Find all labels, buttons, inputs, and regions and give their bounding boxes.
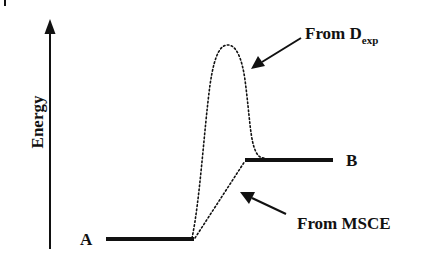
msce-annotation: From MSCE <box>297 215 391 232</box>
dexp-barrier-curve <box>192 45 266 238</box>
dexp-annotation: From Dexp <box>305 25 378 46</box>
level-b-label: B <box>346 152 357 169</box>
msce-pointer-arrow <box>240 192 286 214</box>
dexp-annotation-main: From D <box>305 24 362 43</box>
axis-arrowhead-icon <box>45 19 56 34</box>
energy-axis-label: Energy <box>28 90 48 154</box>
dexp-pointer-arrow <box>251 38 301 69</box>
msce-path-line <box>195 161 245 238</box>
level-a-label: A <box>80 231 92 248</box>
dexp-annotation-subscript: exp <box>362 34 379 46</box>
